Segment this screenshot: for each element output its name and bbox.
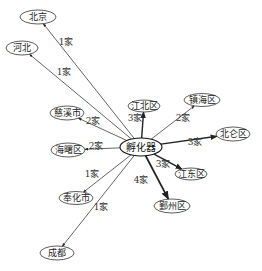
node-beilun: 北仑区 xyxy=(216,127,250,141)
node-label: 慈溪市 xyxy=(54,107,81,118)
node-label: 成都 xyxy=(48,247,66,258)
incubator-network-diagram: 1家1家2家2家1家1家3家2家3家3家4家 北京河北慈溪市海曙区奉化市成都江北… xyxy=(0,0,262,271)
edge-label-fenghua: 1家 xyxy=(85,168,100,179)
node-haishu: 海曙区 xyxy=(51,143,85,157)
node-chengdu: 成都 xyxy=(40,246,74,260)
node-label: 鄞州区 xyxy=(159,200,186,211)
node-label: 北仑区 xyxy=(220,128,247,139)
node-jiangbei: 江北区 xyxy=(128,100,160,112)
edge-label-chengdu: 1家 xyxy=(94,201,109,212)
node-yinzhou: 鄞州区 xyxy=(154,199,190,213)
node-fenghua: 奉化市 xyxy=(59,192,93,205)
edges-layer: 1家1家2家2家1家1家3家2家3家3家4家 xyxy=(29,24,216,247)
node-hebei: 河北 xyxy=(6,41,38,55)
edge-label-cixi: 2家 xyxy=(86,115,101,126)
nodes-layer: 北京河北慈溪市海曙区奉化市成都江北区镇海区北仑区江东区鄞州区 xyxy=(6,10,250,260)
node-label: 江北区 xyxy=(131,101,158,111)
node-label: 江东区 xyxy=(178,168,205,179)
edge-label-beilun: 3家 xyxy=(188,136,203,147)
edge-label-jiangbei: 3家 xyxy=(128,112,143,123)
node-zhenhai: 镇海区 xyxy=(184,94,220,107)
node-label: 镇海区 xyxy=(189,94,216,105)
edge-label-jiangdong: 3家 xyxy=(156,158,171,169)
edge-label-zhenhai: 2家 xyxy=(176,112,191,123)
node-jiangdong: 江东区 xyxy=(175,168,207,180)
node-label: 河北 xyxy=(13,42,31,53)
edge-label-yinzhou: 4家 xyxy=(134,174,149,185)
center-node: 孵化器 xyxy=(120,138,162,156)
center-label: 孵化器 xyxy=(126,141,156,153)
node-label: 北京 xyxy=(29,11,47,22)
edge-label-haishu: 2家 xyxy=(89,140,104,151)
edge-label-beijing: 1家 xyxy=(59,36,74,47)
edge-arrow-hebei xyxy=(29,54,131,139)
node-label: 海曙区 xyxy=(55,144,82,155)
node-beijing: 北京 xyxy=(20,10,56,24)
node-cixi: 慈溪市 xyxy=(50,106,84,120)
edge-label-hebei: 1家 xyxy=(57,66,72,77)
node-label: 奉化市 xyxy=(63,192,90,203)
